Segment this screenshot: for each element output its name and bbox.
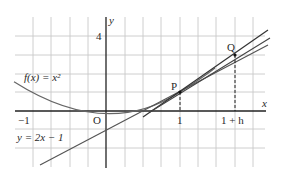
y-tick-4: 4 <box>96 30 102 42</box>
tangent-line <box>40 45 268 165</box>
y-axis-label: y <box>108 14 114 26</box>
point-p-label: P <box>171 80 177 92</box>
grid <box>15 17 265 167</box>
parabola-label: f(x) = x² <box>24 71 61 84</box>
origin-label: O <box>93 114 101 126</box>
point-q <box>233 53 236 56</box>
point-q-label: Q <box>227 41 235 53</box>
x-tick-neg1: −1 <box>18 114 30 126</box>
x-tick-1-plus-h: 1 + h <box>221 114 244 126</box>
secant-line-pq <box>143 30 268 117</box>
x-tick-1: 1 <box>177 114 183 126</box>
secant-line-intermediate <box>150 38 270 112</box>
derivative-diagram: y x O 4 −1 1 1 + h P Q f(x) = x² y = 2x … <box>0 0 281 179</box>
tangent-line-label: y = 2x − 1 <box>16 131 64 143</box>
point-p <box>178 90 181 93</box>
x-axis-label: x <box>261 97 267 109</box>
